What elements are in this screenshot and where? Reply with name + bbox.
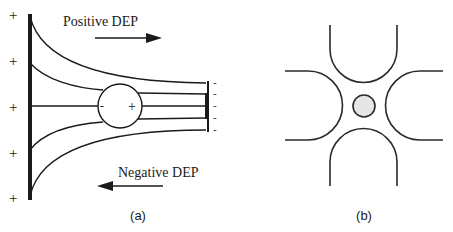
field-line-4 xyxy=(30,122,103,150)
left-electrode xyxy=(28,14,32,200)
charge-minus-2: - xyxy=(213,87,217,99)
caption-b: (b) xyxy=(356,208,372,223)
negative-arrow-head xyxy=(97,181,113,191)
negative-dep-label: Negative DEP xyxy=(118,165,199,180)
charge-plus-2: + xyxy=(9,53,17,69)
dep-diagram: + + + + + - - - - - - + Positive DEP Neg… xyxy=(0,0,453,232)
panel-b xyxy=(285,25,443,186)
positive-dep-label: Positive DEP xyxy=(63,14,138,29)
left-electrode-quad xyxy=(285,71,343,140)
right-electrode-quad xyxy=(386,71,444,140)
field-line-2b xyxy=(138,93,206,94)
caption-a: (a) xyxy=(130,208,146,223)
particle-charge-left: - xyxy=(100,99,104,113)
charge-plus-3: + xyxy=(9,99,17,115)
positive-arrow-head xyxy=(146,33,162,43)
charge-plus-4: + xyxy=(9,145,17,161)
bottom-electrode xyxy=(330,129,397,187)
charge-minus-3: - xyxy=(213,99,217,111)
charge-plus-1: + xyxy=(9,7,17,23)
field-line-4b xyxy=(138,118,206,119)
field-line-2 xyxy=(30,63,103,90)
charge-minus-5: - xyxy=(213,123,217,135)
particle-charge-right: + xyxy=(128,99,136,114)
charge-minus-4: - xyxy=(213,111,217,123)
top-electrode xyxy=(330,25,397,83)
trapped-particle xyxy=(353,95,375,117)
charge-plus-5: + xyxy=(9,190,17,206)
